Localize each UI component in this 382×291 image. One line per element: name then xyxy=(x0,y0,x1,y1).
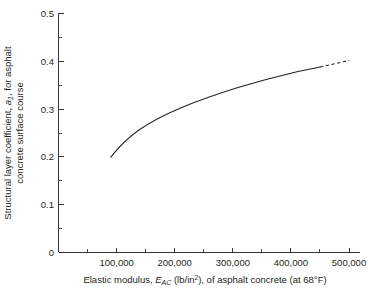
chart-background xyxy=(0,0,382,291)
chart-figure: 0 0.1 0.2 0.3 0.4 0.5 100,000 200,000 30… xyxy=(0,0,382,291)
x-tick-label-1: 200,000 xyxy=(158,257,192,268)
x-axis-title-part3: ), of asphalt concrete (at 68 xyxy=(198,274,314,285)
svg-text:Structural layer coefficient,: Structural layer coefficient, a1, for as… xyxy=(2,46,14,220)
x-tick-label-4: 500,000 xyxy=(332,257,366,268)
asphalt-layer-coefficient-chart: 0 0.1 0.2 0.3 0.4 0.5 100,000 200,000 30… xyxy=(0,0,382,291)
x-tick-label-0: 100,000 xyxy=(99,257,133,268)
y-axis-title-line2: concrete surface course xyxy=(14,82,25,183)
y-tick-label-1: 0.1 xyxy=(41,199,54,210)
y-tick-label-5: 0.5 xyxy=(41,8,54,19)
x-axis-title-part2: (lb/in xyxy=(171,274,194,285)
x-axis-title-part4: F) xyxy=(318,274,327,285)
y-tick-label-4: 0.4 xyxy=(41,56,54,67)
y-axis-title-part1: Structural layer coefficient, xyxy=(2,105,13,219)
y-tick-label-2: 0.2 xyxy=(41,151,54,162)
y-tick-label-3: 0.3 xyxy=(41,104,54,115)
y-tick-label-0: 0 xyxy=(49,247,54,258)
y-axis-title-part2: , for asphalt xyxy=(2,46,13,96)
x-axis-title: Elastic modulus, EAC (lb/in2), of asphal… xyxy=(83,274,326,286)
x-tick-label-2: 300,000 xyxy=(216,257,250,268)
x-axis-title-part1: Elastic modulus, xyxy=(83,274,155,285)
x-tick-label-3: 400,000 xyxy=(274,257,308,268)
